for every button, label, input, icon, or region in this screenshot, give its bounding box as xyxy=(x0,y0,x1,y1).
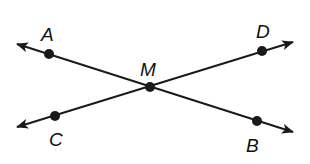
intersecting-lines-diagram: AMDCB xyxy=(0,0,310,164)
label-C: C xyxy=(49,129,63,150)
point-D xyxy=(257,46,267,56)
label-M: M xyxy=(140,59,156,80)
point-M xyxy=(145,82,155,92)
point-A xyxy=(44,49,54,59)
label-D: D xyxy=(256,21,270,42)
label-A: A xyxy=(40,24,54,45)
point-C xyxy=(50,111,60,121)
point-B xyxy=(252,116,262,126)
label-B: B xyxy=(246,135,259,156)
